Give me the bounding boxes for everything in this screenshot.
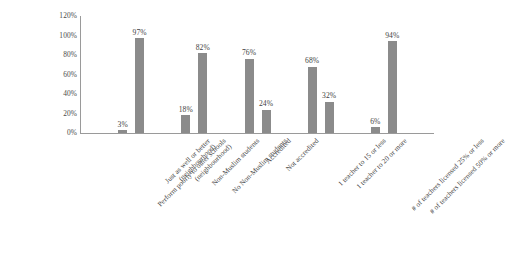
bar-value-label: 82% (196, 43, 210, 52)
bar[interactable] (325, 102, 334, 133)
bar[interactable] (388, 41, 397, 133)
bar-value-label: 94% (385, 31, 399, 40)
bar-slot: 32% (325, 16, 334, 133)
plot-area: 3%97%18%82%76%24%68%32%6%94% (81, 16, 434, 133)
bar[interactable] (135, 38, 144, 133)
bar[interactable] (198, 53, 207, 133)
bar-slot: 68% (308, 16, 317, 133)
y-axis-tick-120pct: 120% (59, 12, 77, 20)
x-axis-category-labels: Perform poorly to other schools(neighbou… (0, 133, 439, 253)
bar-value-label: 3% (117, 120, 127, 129)
bar-value-label: 6% (370, 117, 380, 126)
y-axis-tick-60pct: 60% (63, 71, 77, 79)
bar-value-label: 32% (322, 91, 336, 100)
y-axis-tick-40pct: 40% (63, 90, 77, 98)
bar-value-label: 68% (305, 56, 319, 65)
bar-slot: 24% (262, 16, 271, 133)
bar[interactable] (245, 59, 254, 133)
bar-slot: 3% (118, 16, 127, 133)
bar[interactable] (262, 110, 271, 133)
bar-slot: 18% (181, 16, 190, 133)
bar-value-label: 97% (133, 28, 147, 37)
bar-value-label: 24% (259, 99, 273, 108)
y-axis-tick-100pct: 100% (59, 32, 77, 40)
bar-slot: 97% (135, 16, 144, 133)
y-axis-tick-20pct: 20% (63, 110, 77, 118)
bar-slot: 94% (388, 16, 397, 133)
bar-slot: 6% (371, 16, 380, 133)
bar[interactable] (181, 115, 190, 133)
bar-value-label: 18% (179, 105, 193, 114)
bar[interactable] (308, 67, 317, 133)
bar-value-label: 76% (242, 48, 256, 57)
bar-slot: 76% (245, 16, 254, 133)
y-axis-tick-labels: 0%20%40%60%80%100%120% (38, 16, 80, 133)
y-axis-tick-80pct: 80% (63, 51, 77, 59)
bar-slot: 82% (198, 16, 207, 133)
